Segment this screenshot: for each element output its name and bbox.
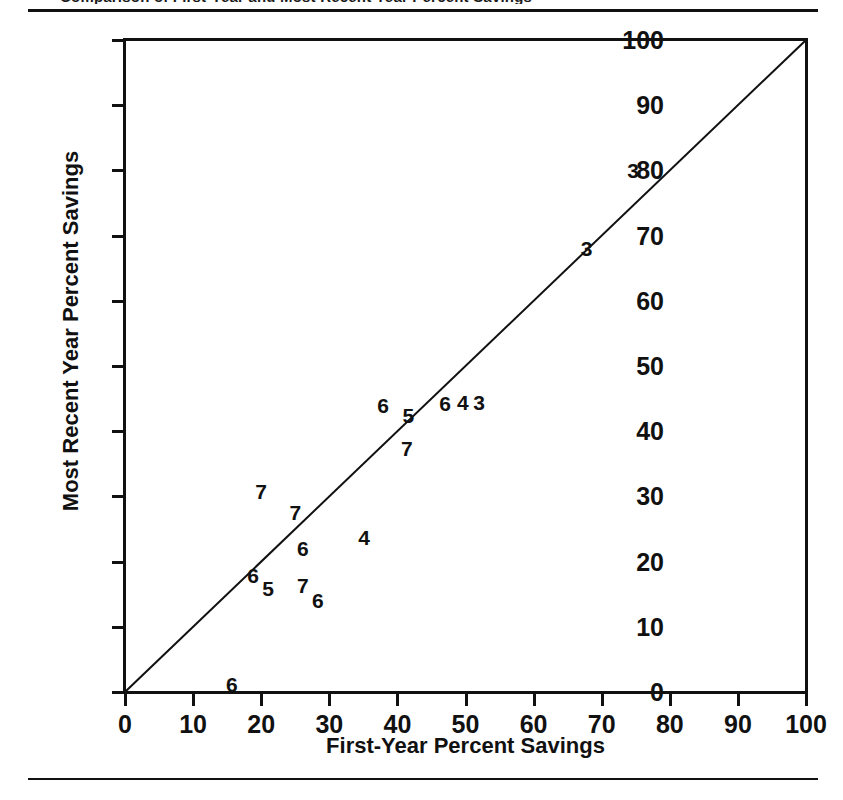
data-point-marker: 3 xyxy=(627,159,639,180)
x-tick-mark xyxy=(669,692,672,706)
data-point-marker: 7 xyxy=(289,502,301,523)
data-point-marker: 6 xyxy=(297,537,309,558)
y-tick-mark xyxy=(112,626,125,629)
data-point-marker: 7 xyxy=(297,575,309,596)
data-point-marker: 6 xyxy=(312,590,324,611)
diagonal-reference-line xyxy=(125,40,806,692)
y-tick-label: 90 xyxy=(604,93,664,118)
data-point-marker: 3 xyxy=(581,237,593,258)
axis-right-frame xyxy=(805,38,808,694)
axis-top-frame xyxy=(123,38,808,41)
data-point-marker: 6 xyxy=(247,564,259,585)
x-tick-mark xyxy=(601,692,604,706)
x-tick-mark xyxy=(533,692,536,706)
y-tick-label: 30 xyxy=(604,484,664,509)
y-tick-label: 0 xyxy=(604,680,664,705)
y-tick-mark xyxy=(112,365,125,368)
data-point-marker: 3 xyxy=(473,391,485,412)
y-axis-title: Most Recent Year Percent Savings xyxy=(58,5,84,657)
y-tick-label: 20 xyxy=(604,550,664,575)
y-tick-mark xyxy=(112,169,125,172)
bottom-rule xyxy=(28,778,818,780)
scatter-plot-area: 0102030405060708090100 01020304050607080… xyxy=(125,40,806,692)
data-point-marker: 6 xyxy=(439,393,451,414)
x-tick-mark xyxy=(465,692,468,706)
data-point-marker: 6 xyxy=(226,674,238,695)
data-point-marker: 6 xyxy=(377,395,389,416)
y-tick-mark xyxy=(112,39,125,42)
y-tick-mark xyxy=(112,430,125,433)
y-tick-mark xyxy=(112,561,125,564)
y-tick-label: 60 xyxy=(604,289,664,314)
x-axis-title: First-Year Percent Savings xyxy=(125,733,806,759)
data-point-marker: 7 xyxy=(255,481,267,502)
x-tick-mark xyxy=(396,692,399,706)
top-rule xyxy=(28,9,818,12)
y-tick-label: 100 xyxy=(604,28,664,53)
y-tick-mark xyxy=(112,235,125,238)
y-tick-mark xyxy=(112,495,125,498)
data-point-marker: 7 xyxy=(401,438,413,459)
figure-container: Comparison of First-Year and Most Recent… xyxy=(0,0,843,800)
data-point-marker: 4 xyxy=(457,391,469,412)
y-tick-mark xyxy=(112,104,125,107)
y-tick-label: 70 xyxy=(604,224,664,249)
x-tick-mark xyxy=(805,692,808,706)
x-tick-mark xyxy=(260,692,263,706)
y-tick-label: 50 xyxy=(604,354,664,379)
figure-title-clipped: Comparison of First-Year and Most Recent… xyxy=(60,0,760,4)
data-point-marker: 5 xyxy=(262,577,274,598)
x-tick-mark xyxy=(737,692,740,706)
data-point-marker: 5 xyxy=(402,404,414,425)
x-tick-mark xyxy=(192,692,195,706)
y-tick-mark xyxy=(112,300,125,303)
x-tick-mark xyxy=(124,692,127,706)
y-tick-label: 40 xyxy=(604,419,664,444)
x-tick-mark xyxy=(328,692,331,706)
y-tick-label: 10 xyxy=(604,615,664,640)
data-point-marker: 4 xyxy=(358,526,370,547)
